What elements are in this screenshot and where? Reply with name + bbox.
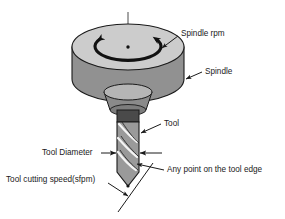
tool-leader <box>141 124 161 133</box>
label-tool-cutting-speed: Tool cutting speed(sfpm) <box>6 175 95 184</box>
label-any-point-on-tool-edge: Any point on the tool edge <box>167 165 263 174</box>
spindle-tool-diagram: Spindle rpm Spindle Tool Tool Diameter A… <box>0 0 285 219</box>
tool-tip-point <box>126 184 129 187</box>
label-tool: Tool <box>164 119 179 128</box>
spindle-leader <box>186 72 202 79</box>
label-spindle-rpm: Spindle rpm <box>181 29 225 38</box>
spindle-center-point <box>126 45 129 48</box>
tool-shank <box>117 110 139 122</box>
cutting-speed-leader <box>108 183 128 196</box>
any-point-leader <box>137 164 164 170</box>
collar-top-face <box>104 84 152 100</box>
diagram-canvas: Spindle rpm Spindle Tool Tool Diameter A… <box>0 0 285 219</box>
label-tool-diameter: Tool Diameter <box>42 148 93 157</box>
label-spindle: Spindle <box>205 67 233 76</box>
